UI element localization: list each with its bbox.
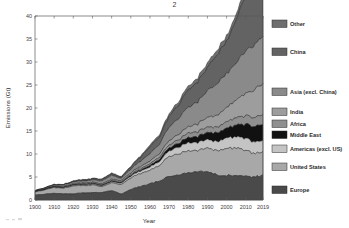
y-tick-label: 5	[29, 174, 32, 180]
x-tick-label: 1920	[67, 204, 79, 210]
y-tick-label: 35	[26, 36, 32, 42]
y-tick-label: 40	[26, 13, 32, 19]
legend-label-india: India	[290, 109, 304, 115]
legend-swatch-americas-excl-us	[272, 145, 287, 153]
x-tick-label: 1950	[125, 204, 137, 210]
stacked-area-chart: 1900191019201930194019501960197019801990…	[0, 0, 349, 228]
x-tick-label: 1990	[201, 204, 213, 210]
legend-item-other[interactable]: Other	[272, 20, 306, 28]
legend-label-asia-excl-china: Asia (excl. China)	[290, 89, 337, 95]
legend-swatch-middle-east	[272, 131, 287, 139]
legend-swatch-africa	[272, 120, 287, 128]
chart-plot-wrapper: 1900191019201930194019501960197019801990…	[0, 0, 349, 228]
legend-item-asia-excl-china[interactable]: Asia (excl. China)	[272, 88, 337, 96]
legend-swatch-india	[272, 108, 287, 116]
legend-label-china: China	[290, 49, 306, 55]
legend-label-middle-east: Middle East	[290, 132, 321, 138]
x-tick-label: 1910	[48, 204, 60, 210]
x-axis-title: Year	[143, 217, 156, 224]
legend-item-americas-excl-us[interactable]: Americas (excl. US)	[272, 145, 342, 153]
legend-label-africa: Africa	[290, 121, 307, 127]
x-tick-label: 1940	[106, 204, 118, 210]
x-tick-label: 1980	[182, 204, 194, 210]
y-axis-title: Emissions (Gt)	[4, 88, 11, 129]
legend-swatch-other	[272, 20, 287, 28]
x-tick-label: 1970	[163, 204, 175, 210]
legend-label-europe: Europe	[290, 187, 309, 193]
x-tick-label: 1930	[86, 204, 98, 210]
legend-item-europe[interactable]: Europe	[272, 186, 309, 194]
y-tick-label: 15	[26, 128, 32, 134]
x-tick-label: 2019	[257, 204, 269, 210]
legend-item-india[interactable]: India	[272, 108, 304, 116]
legend-item-middle-east[interactable]: Middle East	[272, 131, 321, 139]
legend-item-united-states[interactable]: United States	[272, 163, 326, 171]
legend-swatch-united-states	[272, 163, 287, 171]
chart-legend: OtherChinaAsia (excl. China)IndiaAfricaM…	[272, 20, 342, 194]
y-tick-label: 0	[29, 197, 32, 203]
legend-item-africa[interactable]: Africa	[272, 120, 307, 128]
x-tick-label: 2000	[221, 204, 233, 210]
y-tick-label: 30	[26, 59, 32, 65]
y-tick-label: 25	[26, 82, 32, 88]
y-tick-label: 10	[26, 151, 32, 157]
figure-canvas: 2 19001910192019301940195019601970198019…	[0, 0, 349, 228]
legend-swatch-china	[272, 48, 287, 56]
y-tick-label: 20	[26, 105, 32, 111]
legend-swatch-asia-excl-china	[272, 88, 287, 96]
scan-artifact	[6, 218, 22, 220]
legend-label-other: Other	[290, 21, 306, 27]
legend-label-americas-excl-us: Americas (excl. US)	[290, 146, 342, 152]
x-tick-label: 1900	[29, 204, 41, 210]
legend-item-china[interactable]: China	[272, 48, 306, 56]
legend-swatch-europe	[272, 186, 287, 194]
x-tick-label: 2010	[240, 204, 252, 210]
legend-label-united-states: United States	[290, 164, 326, 170]
x-tick-label: 1960	[144, 204, 156, 210]
